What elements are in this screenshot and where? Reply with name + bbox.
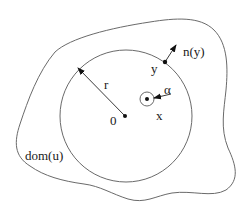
radius-arrow <box>78 68 125 116</box>
alpha-label: α <box>164 82 171 97</box>
point-x <box>145 97 149 101</box>
origin-label: 0 <box>110 113 117 128</box>
normal-arrow <box>165 45 176 62</box>
point-x-label: x <box>156 108 163 123</box>
point-y <box>163 60 167 64</box>
radius-label: r <box>104 77 109 92</box>
domain-label: dom(u) <box>25 148 63 163</box>
domain-diagram: r 0 x y n(y) α dom(u) <box>0 0 247 208</box>
origin-point <box>123 114 127 118</box>
normal-label: n(y) <box>183 44 205 59</box>
point-y-label: y <box>151 61 158 76</box>
